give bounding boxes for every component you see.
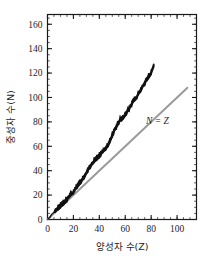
x-axis-title: 양성자 수(Z) <box>96 241 149 252</box>
band-sawtooth-detail <box>58 64 154 211</box>
y-tick-label: 40 <box>33 166 43 176</box>
x-tick-label: 80 <box>146 224 156 234</box>
y-tick-label: 60 <box>33 142 43 152</box>
reference-line-n-equals-z <box>48 88 188 220</box>
x-tick-label: 100 <box>170 224 185 234</box>
figure-container: 020406080100020406080100120140160N = Z양성… <box>0 0 214 263</box>
y-tick-label: 20 <box>33 190 43 200</box>
y-tick-label: 140 <box>28 44 43 54</box>
x-tick-label: 0 <box>45 224 50 234</box>
y-tick-label: 0 <box>38 215 43 225</box>
y-tick-label: 100 <box>28 93 43 103</box>
stable-nuclide-band <box>48 64 154 220</box>
nuclide-chart: 020406080100020406080100120140160N = Z양성… <box>0 0 214 263</box>
y-tick-label: 160 <box>28 20 43 30</box>
y-axis-ticks: 020406080100120140160 <box>28 20 196 225</box>
x-tick-label: 60 <box>120 224 130 234</box>
y-tick-label: 80 <box>33 117 43 127</box>
annotation-n-equals-z: N = Z <box>145 116 169 126</box>
y-tick-label: 120 <box>28 68 43 78</box>
x-tick-label: 20 <box>69 224 79 234</box>
y-axis-title: 중성자 수(N) <box>5 90 16 144</box>
x-tick-label: 40 <box>95 224 105 234</box>
